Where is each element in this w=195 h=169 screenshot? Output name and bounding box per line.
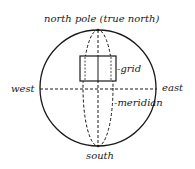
north-pole-point [97, 29, 99, 31]
south-pole-point [97, 145, 99, 147]
grid-label: -grid [117, 64, 141, 74]
east-label: east [162, 83, 183, 93]
globe-diagram: north pole (true north) west east -grid … [0, 0, 195, 169]
meridian-label: -meridian [114, 98, 163, 108]
south-label: south [86, 151, 114, 161]
west-label: west [11, 84, 35, 94]
north-pole-label: north pole (true north) [44, 14, 159, 24]
